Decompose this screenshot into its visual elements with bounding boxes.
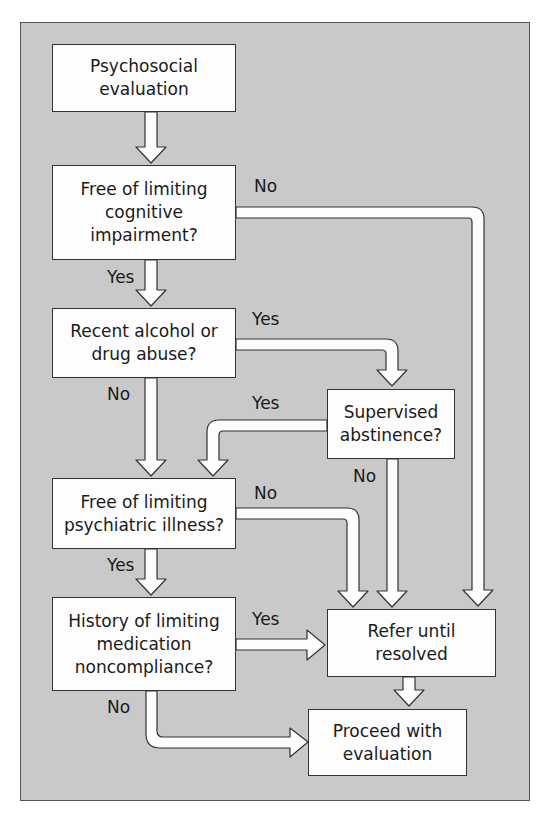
arrow-substance-yes [236,339,407,386]
node-label: Supervised abstinence? [332,401,450,447]
edge-label-abstinence-yes: Yes [252,393,279,413]
arrow-cognitive-yes [136,260,166,306]
edge-label-cognitive-no: No [254,176,277,196]
node-psychiatric-illness: Free of limiting psychiatric illness? [52,478,236,549]
edge-label-cognitive-yes: Yes [107,267,134,287]
arrow-refer-to-proceed [394,677,424,706]
arrow-psychiatric-yes [136,549,166,595]
node-label: Free of limiting psychiatric illness? [57,491,231,537]
arrow-start-to-cognitive [136,112,166,163]
node-label: Free of limiting cognitive impairment? [57,178,231,247]
edge-label-abstinence-no: No [353,466,376,486]
node-label: Recent alcohol or drug abuse? [57,320,231,366]
edge-label-psychiatric-no: No [254,483,277,503]
node-proceed-with-evaluation: Proceed with evaluation [308,709,467,776]
node-label: Proceed with evaluation [313,720,462,766]
arrow-psychiatric-no [236,508,368,607]
edge-label-substance-yes: Yes [252,309,279,329]
edge-label-psychiatric-yes: Yes [107,555,134,575]
node-refer-until-resolved: Refer until resolved [327,609,496,677]
node-cognitive-impairment: Free of limiting cognitive impairment? [52,165,236,260]
node-label: Psychosocial evaluation [57,55,231,101]
edge-label-compliance-no: No [107,697,130,717]
arrow-abstinence-yes [198,420,327,476]
arrow-substance-no [136,378,166,476]
node-medication-noncompliance: History of limiting medication noncompli… [52,597,236,691]
node-label: Refer until resolved [332,620,491,666]
arrow-compliance-yes [236,630,325,660]
edge-label-compliance-yes: Yes [252,609,279,629]
node-label: History of limiting medication noncompli… [57,610,231,679]
node-substance-abuse: Recent alcohol or drug abuse? [52,308,236,378]
arrow-abstinence-no [377,459,407,607]
node-psychosocial-evaluation: Psychosocial evaluation [52,44,236,112]
node-supervised-abstinence: Supervised abstinence? [327,389,455,459]
edge-label-substance-no: No [107,384,130,404]
arrow-compliance-no [146,691,308,757]
